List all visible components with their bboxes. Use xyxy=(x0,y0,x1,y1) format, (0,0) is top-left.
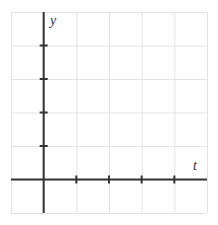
coordinate-plane: y t xyxy=(0,0,218,225)
y-axis-label: y xyxy=(48,13,57,28)
tick-marks xyxy=(40,46,175,184)
t-axis-label: t xyxy=(193,158,198,173)
